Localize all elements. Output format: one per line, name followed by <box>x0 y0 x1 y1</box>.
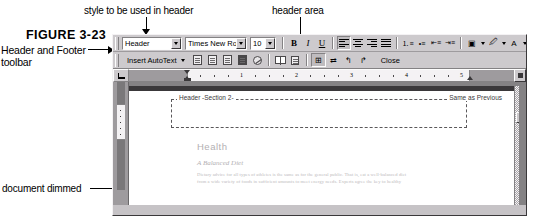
document-subheading: A Balanced Diet <box>197 159 243 167</box>
font-color-icon: A <box>511 39 516 48</box>
align-justify-button[interactable] <box>379 36 393 50</box>
insert-autotext-button[interactable]: Insert AutoText <box>122 54 190 67</box>
style-dropdown[interactable]: Header <box>122 37 182 50</box>
page-top-edge <box>129 86 514 91</box>
borders-icon: ▣ <box>468 39 476 48</box>
numbered-list-button[interactable]: ⒈≡ <box>401 36 415 50</box>
tab-stop-selector[interactable] <box>113 69 129 82</box>
ruler-mark-4: 4 <box>405 72 408 78</box>
align-right-icon <box>367 38 377 48</box>
show-hide-document-text-button[interactable] <box>288 53 303 67</box>
page-number-icon <box>193 55 202 65</box>
bulleted-list-icon: •≡ <box>419 40 426 47</box>
align-right-button[interactable] <box>365 36 379 50</box>
insert-date-button[interactable] <box>235 53 250 67</box>
toolbar-separator <box>268 54 270 66</box>
show-previous-icon: ↰ <box>345 56 352 65</box>
callout-document-dimmed-label: document dimmed <box>2 183 81 194</box>
insert-autotext-label: Insert AutoText <box>127 56 177 65</box>
decrease-indent-button[interactable]: ⇤≡ <box>429 36 443 50</box>
toolbar-separator <box>306 54 308 66</box>
left-indent-marker[interactable] <box>184 78 191 81</box>
insert-page-number-button[interactable] <box>190 53 205 67</box>
callout-header-footer-toolbar: Header and Footer toolbar <box>1 44 105 68</box>
ruler-mark-5: 5 <box>460 72 463 78</box>
toolbar-separator <box>460 37 462 49</box>
decrease-indent-icon: ⇤≡ <box>431 39 441 47</box>
bold-button[interactable]: B <box>287 36 301 50</box>
ruler-mark-1: 1 <box>240 72 243 78</box>
insert-number-of-pages-button[interactable] <box>205 53 220 67</box>
chevron-down-icon[interactable] <box>236 38 246 49</box>
clock-icon <box>253 56 262 65</box>
font-value: Times New Roman <box>188 39 236 48</box>
underline-button[interactable]: U <box>315 36 329 50</box>
show-previous-button[interactable]: ↰ <box>341 53 356 67</box>
figure-number: FIGURE 3-23 <box>26 28 106 42</box>
bulleted-list-button[interactable]: •≡ <box>415 36 429 50</box>
ruler-mark-2: 2 <box>295 72 298 78</box>
insert-time-button[interactable] <box>250 53 265 67</box>
same-as-previous-button[interactable]: ⊞ <box>311 53 326 67</box>
toolbar-separator <box>396 37 398 49</box>
borders-dropdown[interactable] <box>479 36 486 50</box>
page-setup-button[interactable] <box>273 53 288 67</box>
underline-icon: U <box>319 38 326 48</box>
switch-header-footer-button[interactable]: ⇄ <box>326 53 341 67</box>
italic-button[interactable]: I <box>301 36 315 50</box>
font-dropdown[interactable]: Times New Roman <box>185 37 247 50</box>
align-left-button[interactable] <box>337 36 351 50</box>
document-page[interactable]: Header -Section 2- Same as Previous Heal… <box>129 86 514 216</box>
highlight-pen-icon: 🖉 <box>489 36 498 50</box>
format-page-number-icon <box>223 55 232 65</box>
font-size-dropdown[interactable]: 10 <box>250 37 276 50</box>
ruler-mark-3: 3 <box>350 72 353 78</box>
font-color-button[interactable]: A <box>507 36 521 50</box>
document-body-line: Dietary advice for all types of athletes… <box>197 172 406 177</box>
vertical-ruler[interactable] <box>113 82 129 216</box>
calendar-icon <box>238 55 247 65</box>
ruler-left-margin <box>129 70 187 81</box>
highlight-dropdown[interactable] <box>500 36 507 50</box>
chevron-down-icon[interactable] <box>171 38 181 49</box>
ruler-end-button[interactable] <box>514 69 526 82</box>
header-area-box[interactable] <box>171 99 467 128</box>
horizontal-ruler[interactable]: 1 2 3 4 5 <box>129 69 514 82</box>
close-button[interactable]: Close <box>375 54 406 67</box>
borders-button[interactable]: ▣ <box>465 36 479 50</box>
show-next-button[interactable]: ↱ <box>356 53 371 67</box>
first-line-indent-marker[interactable] <box>184 70 190 74</box>
highlight-button[interactable]: 🖉 <box>486 36 500 50</box>
callout-style-label: style to be used in header <box>84 5 193 16</box>
font-color-dropdown[interactable] <box>521 36 527 50</box>
header-footer-toolbar: Insert AutoText ⊞ ⇄ ↰ ↱ Close <box>113 52 526 69</box>
window-bottom-frame <box>113 205 526 215</box>
toolbar-grip[interactable] <box>115 54 119 67</box>
format-page-number-button[interactable] <box>220 53 235 67</box>
toolbar-grip[interactable] <box>115 37 119 50</box>
font-size-value: 10 <box>253 39 265 48</box>
same-as-previous-label: Same as Previous <box>447 94 504 101</box>
ruler-right-margin <box>470 70 514 81</box>
right-indent-marker[interactable] <box>467 76 473 80</box>
ruler-text-area <box>187 70 470 81</box>
document-body-line: from a wide variety of foods in sufficie… <box>197 179 401 184</box>
document-page-area: Header -Section 2- Same as Previous Heal… <box>113 82 526 216</box>
increase-indent-icon: ⇥≡ <box>445 39 455 47</box>
callout-header-area-label: header area <box>272 5 324 16</box>
italic-icon: I <box>307 38 310 48</box>
chevron-down-icon <box>481 42 485 45</box>
bold-icon: B <box>291 38 297 48</box>
header-section-label: Header -Section 2- <box>177 94 236 101</box>
link-to-previous-icon: ⊞ <box>315 56 322 65</box>
ruler-row: 1 2 3 4 5 <box>113 69 526 82</box>
align-center-button[interactable] <box>351 36 365 50</box>
toolbar-separator <box>282 37 284 49</box>
chevron-down-icon[interactable] <box>265 38 275 49</box>
increase-indent-button[interactable]: ⇥≡ <box>443 36 457 50</box>
numbered-list-icon: ⒈≡ <box>402 38 413 48</box>
show-hide-text-icon <box>291 56 299 65</box>
toolbar-separator <box>332 37 334 49</box>
square-icon <box>518 73 523 78</box>
left-tab-stop-icon <box>118 73 125 79</box>
